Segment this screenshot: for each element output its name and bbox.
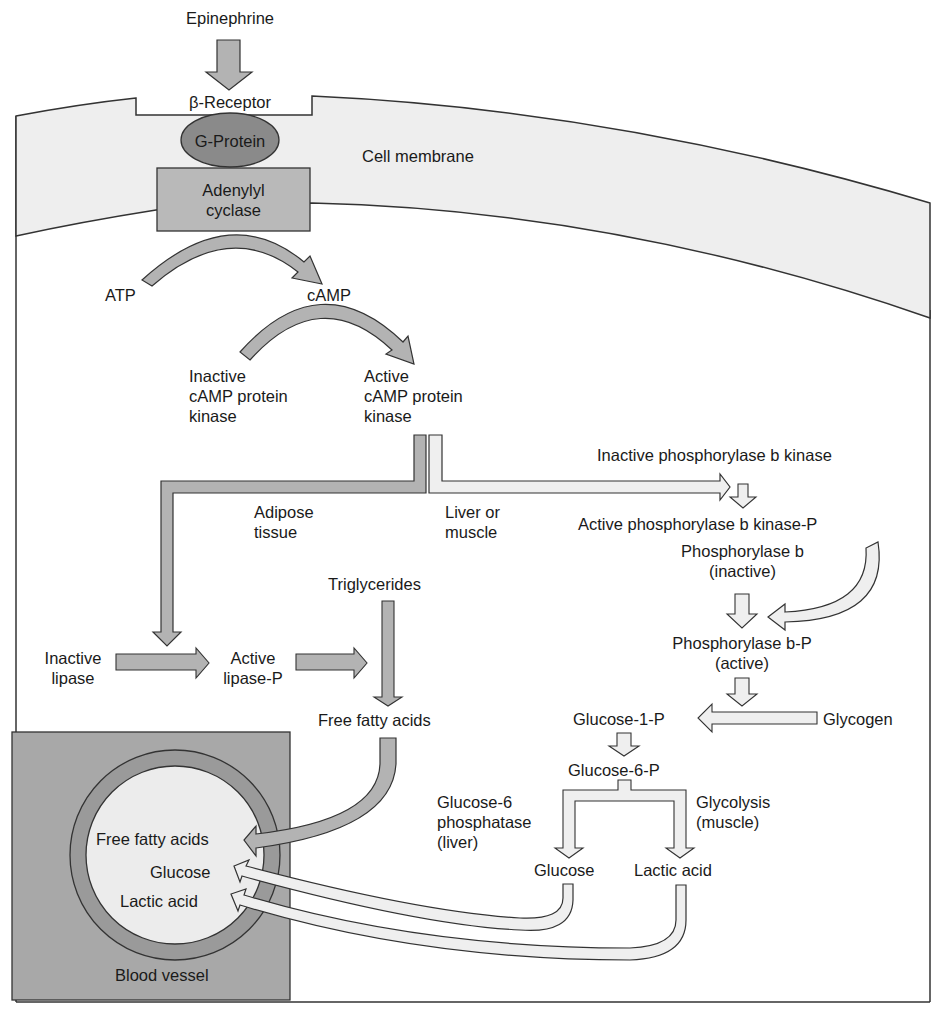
free-fatty-acids-label: Free fatty acids [318, 710, 431, 730]
vessel-glucose-label: Glucose [150, 862, 211, 882]
beta-receptor-label: β-Receptor [170, 92, 290, 112]
atp-to-camp-arrow [142, 235, 322, 286]
kinase-activation-arrow [240, 304, 414, 364]
glucose-1-p-label: Glucose-1-P [573, 709, 665, 729]
vessel-lactic-acid-label: Lactic acid [120, 891, 198, 911]
blood-vessel-label: Blood vessel [115, 965, 209, 985]
lipase-p-arrow [296, 648, 367, 678]
triglycerides-arrow [374, 601, 402, 706]
triglycerides-label: Triglycerides [328, 574, 421, 594]
cell-membrane-label: Cell membrane [362, 146, 474, 166]
lactic-acid-label: Lactic acid [634, 860, 712, 880]
blood-vessel-lumen [86, 766, 264, 944]
glucose-6-p-label: Glucose-6-P [568, 760, 660, 780]
glucose-label: Glucose [534, 860, 595, 880]
epinephrine-arrow [206, 40, 252, 90]
phosphorylase-b-label: Phosphorylase b (inactive) [660, 541, 825, 581]
adipose-tissue-label: Adipose tissue [254, 502, 314, 542]
g-protein-label: G-Protein [180, 131, 280, 151]
active-camp-kinase-label: Active cAMP protein kinase [364, 366, 463, 426]
active-lipase-p-label: Active lipase-P [210, 648, 296, 688]
epinephrine-label: Epinephrine [180, 8, 280, 28]
phosphorylase-b-p-label: Phosphorylase b-P (active) [652, 633, 832, 673]
glycogen-label: Glycogen [823, 709, 893, 729]
phosphorylase-down-arrow [727, 594, 757, 628]
glucose-6p-branch-arrow [555, 780, 694, 858]
glycolysis-label: Glycolysis (muscle) [696, 792, 770, 832]
lipase-activation-arrow [116, 648, 209, 678]
inactive-phosphorylase-b-kinase-label: Inactive phosphorylase b kinase [597, 445, 832, 465]
glucose-1p-down-arrow [609, 733, 639, 756]
atp-label: ATP [105, 285, 136, 305]
glucose-6-phosphatase-label: Glucose-6 phosphatase (liver) [437, 792, 532, 852]
diagram-canvas: Epinephrine β-Receptor G-Protein Adenyly… [0, 0, 938, 1012]
vessel-free-fatty-acids-label: Free fatty acids [96, 829, 209, 849]
inactive-lipase-label: Inactive lipase [28, 648, 118, 688]
inactive-camp-kinase-label: Inactive cAMP protein kinase [189, 366, 288, 426]
kinase-p-down-arrow [730, 484, 756, 508]
liver-or-muscle-label: Liver or muscle [445, 502, 500, 542]
active-phosphorylase-b-kinase-p-label: Active phosphorylase b kinase-P [578, 514, 817, 534]
camp-label: cAMP [307, 285, 351, 305]
glycogen-arrow [698, 704, 817, 732]
phosphorylase-bp-down-arrow [727, 678, 757, 706]
adenylyl-cyclase-label: Adenylyl cyclase [160, 180, 307, 220]
